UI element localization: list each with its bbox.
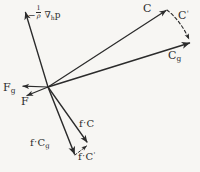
coriolis-wind-vector xyxy=(48,87,87,142)
pgf-variable: p xyxy=(55,10,61,20)
friction-geostrophic-vector xyxy=(23,86,48,87)
pgf-denominator: ρ xyxy=(36,13,41,19)
geostrophic-wind-subscript: g xyxy=(176,54,181,63)
friction-geostrophic-subscript: g xyxy=(11,86,16,95)
wind-vector xyxy=(48,11,166,88)
coriolis-wind-prime-dot: · xyxy=(82,151,85,161)
coriolis-geostrophic-label: f·Cg xyxy=(30,138,50,150)
pgf-fraction: 1ρ xyxy=(36,5,41,20)
coriolis-geostrophic-subscript: g xyxy=(45,142,49,150)
coriolis-wind-base: C xyxy=(87,118,95,129)
friction-label: F xyxy=(21,96,29,107)
friction-geostrophic-label: Fg xyxy=(3,82,15,95)
coriolis-wind-prime-base: C xyxy=(86,151,94,162)
coriolis-wind-prime-mark: ' xyxy=(94,151,96,159)
wind-prime-label: C' xyxy=(178,10,189,21)
coriolis-geostrophic-dot: · xyxy=(34,137,37,147)
wind-label-text: C xyxy=(143,2,151,15)
friction-vector xyxy=(27,87,48,96)
friction-label-text: F xyxy=(21,95,29,108)
coriolis-wind-dot: · xyxy=(83,118,86,128)
friction-geostrophic-base: F xyxy=(3,81,11,94)
pressure-gradient-vector xyxy=(26,13,49,88)
pgf-minus-sign: − xyxy=(28,10,36,20)
wind-prime-base: C xyxy=(178,9,186,22)
pgf-numerator: 1 xyxy=(36,5,41,11)
wind-prime-mark: ' xyxy=(187,9,189,18)
pressure-gradient-label: −1ρ ∇hp xyxy=(28,5,61,21)
wind-label: C xyxy=(143,3,151,14)
geostrophic-wind-label: Cg xyxy=(168,50,181,63)
coriolis-wind-prime-label: f·C' xyxy=(78,152,95,162)
coriolis-wind-label: f·C xyxy=(79,119,94,129)
vector-diagram-figure: −1ρ ∇hp C C' Cg Fg F f·C f·Cg f·C' xyxy=(0,0,200,172)
coriolis-geostrophic-vector xyxy=(48,87,75,154)
